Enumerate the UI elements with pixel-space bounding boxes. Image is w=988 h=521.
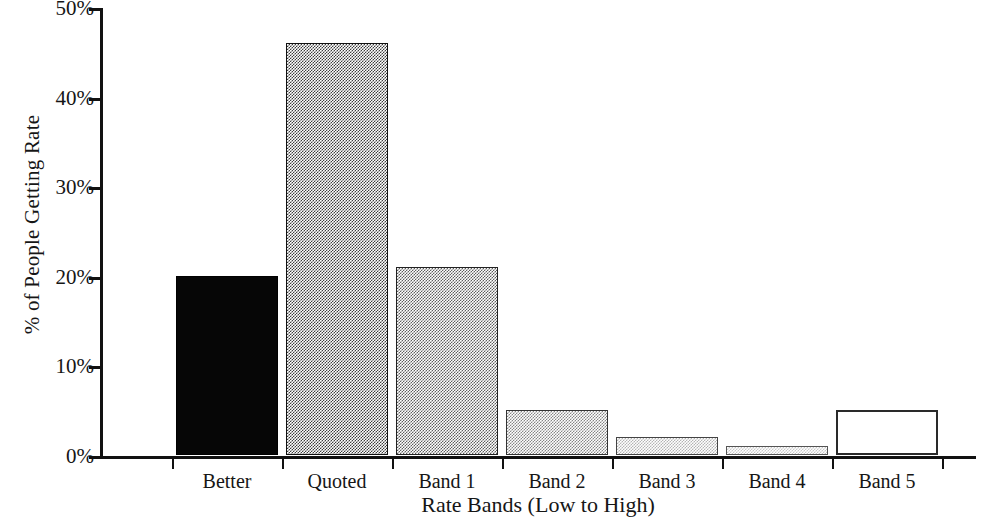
x-tick-label: Better [166,471,288,491]
y-tick-mark [89,456,103,459]
y-tick-label: 10% [20,356,94,377]
bar [396,267,498,455]
y-axis-line [100,10,103,458]
bar [726,446,828,455]
y-tick-label: 20% [20,267,94,288]
y-tick-label: 30% [20,177,94,198]
y-tick-mark [89,98,103,101]
y-tick-label: 0% [20,446,94,467]
plot-area: BetterQuotedBand 1Band 2Band 3Band 4Band… [100,8,976,458]
bar [506,410,608,455]
x-tick-label: Band 3 [606,471,728,491]
y-tick-label: 50% [20,0,94,19]
x-tick-label: Band 1 [386,471,508,491]
y-axis-tick-labels: 0%10%20%30%40%50% [14,0,94,521]
y-tick-mark [89,277,103,280]
x-tick-mark [282,456,284,469]
y-tick-label: 40% [20,88,94,109]
x-tick-mark [832,456,834,469]
y-tick-mark [89,366,103,369]
x-tick-mark [722,456,724,469]
bar [616,437,718,455]
x-tick-mark [612,456,614,469]
x-tick-mark [172,456,174,469]
bar [286,43,388,455]
bar [836,410,938,455]
x-tick-label: Quoted [276,471,398,491]
x-tick-mark [942,456,944,469]
x-tick-mark [392,456,394,469]
x-tick-label: Band 5 [826,471,948,491]
y-tick-mark [89,187,103,190]
x-tick-label: Band 2 [496,471,618,491]
bar-chart: % of People Getting Rate 0%10%20%30%40%5… [0,0,988,521]
x-axis-line [100,456,976,459]
x-tick-mark [502,456,504,469]
y-tick-mark [89,8,103,11]
x-tick-label: Band 4 [716,471,838,491]
bar [176,276,278,455]
x-axis-title: Rate Bands (Low to High) [100,492,976,518]
